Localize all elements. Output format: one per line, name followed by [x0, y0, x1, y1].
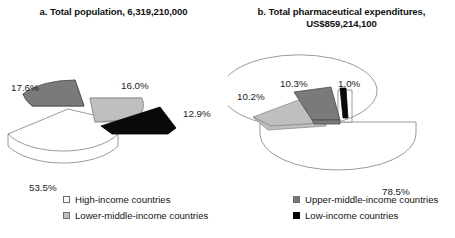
- chart-a-value-label-high-income: 53.5%: [29, 182, 57, 193]
- pie-chart-b: [228, 34, 455, 184]
- chart-b-title: b. Total pharmaceutical expenditures, US…: [228, 6, 455, 30]
- legend-item-low-income-label: Low-income countries: [305, 210, 398, 221]
- light-gray-square-icon: [63, 212, 70, 219]
- black-square-icon: [293, 212, 300, 219]
- white-square-icon: [63, 196, 70, 203]
- chart-panel-b: b. Total pharmaceutical expenditures, US…: [228, 0, 455, 190]
- pie-slice-b-upper-middle-income-wall: [312, 120, 340, 124]
- chart-a-value-label-low-income: 12.9%: [183, 108, 211, 119]
- legend-item-lower-middle-income[interactable]: Lower-middle-income countries: [63, 209, 208, 222]
- chart-b-plot-area: 78.5% 10.2% 10.3% 1.0%: [228, 34, 455, 184]
- legend-item-lower-middle-income-label: Lower-middle-income countries: [75, 210, 208, 221]
- legend-item-high-income[interactable]: High-income countries: [63, 193, 208, 206]
- dark-gray-square-icon: [293, 196, 300, 203]
- chart-a-value-label-upper-middle-income: 17.6%: [11, 82, 39, 93]
- legend-item-upper-middle-income[interactable]: Upper-middle-income countries: [293, 193, 438, 206]
- legend-item-upper-middle-income-label: Upper-middle-income countries: [305, 194, 438, 205]
- chart-b-value-label-low-income: 1.0%: [338, 78, 360, 89]
- chart-b-value-label-upper-middle-income: 10.3%: [280, 78, 308, 89]
- chart-panel-a: a. Total population, 6,319,210,000: [0, 0, 227, 190]
- chart-legend: High-income countries Lower-middle-incom…: [0, 193, 455, 238]
- chart-a-value-label-lower-middle-income: 16.0%: [121, 80, 149, 91]
- chart-a-title: a. Total population, 6,319,210,000: [0, 6, 227, 18]
- legend-item-low-income[interactable]: Low-income countries: [293, 209, 438, 222]
- legend-item-high-income-label: High-income countries: [75, 194, 170, 205]
- legend-column-left: High-income countries Lower-middle-incom…: [63, 193, 208, 225]
- legend-column-right: Upper-middle-income countries Low-income…: [293, 193, 438, 225]
- chart-a-plot-area: 53.5% 17.6% 16.0% 12.9%: [0, 34, 227, 184]
- chart-b-value-label-lower-middle-income: 10.2%: [237, 91, 265, 102]
